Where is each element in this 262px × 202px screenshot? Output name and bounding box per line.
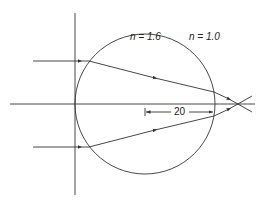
optics-diagram: 20 n = 1.6 n = 1.0 <box>0 0 262 202</box>
lower-refracted-ray <box>89 130 155 147</box>
lower-exit-ray <box>214 109 229 116</box>
dimension-label: 20 <box>174 106 186 117</box>
inner-index-label: n = 1.6 <box>130 31 161 42</box>
upper-refracted-ray <box>89 61 155 78</box>
outer-index-label: n = 1.0 <box>189 31 220 42</box>
upper-exit-ray <box>214 92 229 99</box>
